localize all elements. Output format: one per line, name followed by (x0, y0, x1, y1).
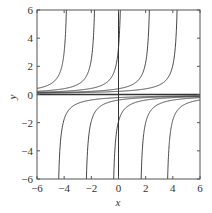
y-tick-label: −6 (21, 173, 33, 185)
y-tick-labels: −6−4−20246 (21, 4, 33, 185)
y-tick-label: 6 (28, 4, 34, 16)
solution-curve (37, 0, 121, 92)
y-axis-label: y (6, 94, 18, 100)
x-tick-label: 4 (170, 182, 176, 194)
solution-curves (37, 0, 200, 193)
solution-curve (37, 0, 150, 93)
x-axis-label: x (115, 196, 121, 208)
solution-curve (58, 96, 200, 193)
y-tick-label: 2 (28, 60, 34, 72)
chart: −6−4−20246 −6−4−20246 x y (0, 0, 212, 213)
x-tick-label: −4 (58, 182, 70, 194)
x-tick-labels: −6−4−20246 (31, 182, 203, 194)
y-tick-label: 4 (28, 32, 34, 44)
x-tick-label: 6 (197, 182, 203, 194)
solution-curve (37, 0, 67, 88)
y-tick-label: −2 (21, 117, 33, 129)
y-tick-label: 0 (28, 89, 34, 101)
x-tick-label: −2 (85, 182, 97, 194)
x-tick-label: 0 (116, 182, 122, 194)
x-tick-label: 2 (143, 182, 149, 194)
y-tick-label: −4 (21, 145, 33, 157)
solution-curve (37, 0, 177, 93)
